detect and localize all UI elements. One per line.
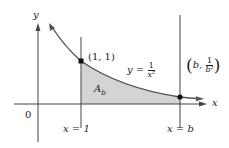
- origin-label: 0: [25, 110, 31, 120]
- close-paren: ): [214, 55, 221, 75]
- x-axis-label: x: [212, 98, 218, 108]
- x-equals-1-label: x = 1: [63, 124, 90, 134]
- diagram-graphics: [0, 0, 229, 148]
- point-b-x: b,: [193, 59, 203, 70]
- equation-fraction: 1 x²: [147, 62, 155, 79]
- x-axis-arrow-icon: [199, 102, 207, 107]
- point-b-denominator: b²: [205, 66, 213, 74]
- y-axis-arrow-icon: [36, 23, 41, 31]
- region-label: Ab: [94, 84, 106, 97]
- equation-denominator: x²: [147, 71, 155, 79]
- point-b-1-over-b-squared: [177, 94, 182, 99]
- equation-lhs: y =: [127, 64, 144, 75]
- point-b-fraction: 1 b²: [205, 57, 213, 74]
- y-axis-label: y: [33, 10, 39, 20]
- curve-right-arrow-icon: [196, 96, 204, 101]
- open-paren: (: [186, 55, 193, 75]
- x-equals-b-label: x = b: [167, 124, 194, 134]
- point-1-1: [79, 59, 84, 64]
- region-label-subscript: b: [101, 89, 105, 97]
- point-b-label: (b, 1 b² ): [186, 57, 220, 74]
- point-1-1-label: (1, 1): [88, 52, 115, 62]
- curve-equation-label: y = 1 x²: [127, 62, 155, 79]
- improper-integral-diagram: y x 0 (1, 1) y = 1 x² (b, 1 b² ) Ab x = …: [0, 0, 229, 148]
